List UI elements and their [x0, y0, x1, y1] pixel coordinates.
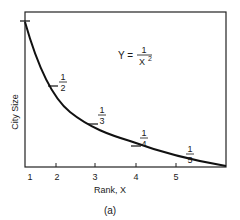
- label-half: 1 2: [59, 72, 67, 93]
- svg-text:1: 1: [60, 72, 65, 82]
- svg-text:Y =: Y =: [118, 50, 133, 61]
- x-tick-label-1: 1: [27, 172, 32, 182]
- chart: 1 2 1 3 1 4 1 5 Y = 1 X 2 1 2 3 4 5 Rank…: [0, 0, 240, 220]
- x-axis-label: Rank, X: [94, 185, 126, 195]
- equation: Y = 1 X 2: [118, 45, 152, 67]
- svg-text:1: 1: [141, 45, 146, 55]
- label-fifth: 1 5: [186, 144, 194, 165]
- x-tick-label-5: 5: [173, 172, 178, 182]
- svg-text:2: 2: [60, 83, 65, 93]
- svg-text:3: 3: [99, 116, 104, 126]
- x-tick-label-4: 4: [133, 172, 138, 182]
- y-axis-label: City Size: [10, 94, 20, 130]
- x-tick-label-2: 2: [54, 172, 59, 182]
- svg-text:4: 4: [141, 139, 146, 149]
- svg-text:X: X: [139, 57, 145, 67]
- svg-text:1: 1: [99, 105, 104, 115]
- svg-text:5: 5: [187, 155, 192, 165]
- figure-caption: (a): [104, 205, 116, 216]
- plot-frame: [25, 12, 226, 167]
- label-third: 1 3: [98, 105, 106, 126]
- svg-text:1: 1: [141, 128, 146, 138]
- x-tick-label-3: 3: [92, 172, 97, 182]
- svg-text:1: 1: [187, 144, 192, 154]
- curve: [25, 22, 226, 166]
- svg-text:2: 2: [148, 55, 152, 62]
